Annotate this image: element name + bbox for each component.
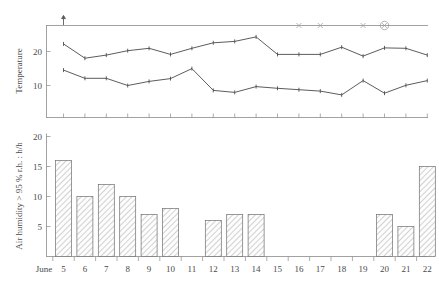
xtick-label-10: 10 [166,264,176,274]
xtick-label-9: 9 [147,264,152,274]
bar-june-7 [98,185,114,257]
xtick-label-7: 7 [104,264,109,274]
bottom-ytick-label-20: 20 [33,132,43,142]
x-axis-month-label: June [36,264,53,274]
series-maximum-temperature [64,37,428,58]
xtick-label-8: 8 [125,264,130,274]
bar-june-22 [419,167,435,257]
top-panel-temperature: 20 10 Temperature [14,15,428,117]
top-ytick-label-20: 20 [33,47,43,57]
bar-june-8 [120,197,136,257]
bottom-ytick-label-15: 15 [33,162,43,172]
bottom-panel-x-ticks [53,257,417,262]
bottom-ytick-label-5: 5 [38,222,43,232]
bar-june-13 [227,215,243,257]
humidity-bars [56,161,436,257]
figure-container: 20 10 Temperature [0,0,439,288]
xtick-label-19: 19 [359,264,369,274]
event-arrow-marker [62,15,66,25]
xtick-label-12: 12 [209,264,218,274]
top-panel-y-axis-label: Temperature [14,48,24,93]
bar-june-20 [377,215,393,257]
xtick-label-18: 18 [337,264,347,274]
chart-svg: 20 10 Temperature [0,0,439,288]
xtick-label-17: 17 [316,264,326,274]
bottom-panel-air-humidity: 20 15 10 5 Air humidity > 95 % r.h. : h/… [14,132,435,274]
xtick-label-13: 13 [230,264,240,274]
series-minimum-temperature-points [64,67,428,97]
bar-june-14 [248,215,264,257]
x-axis-day-labels: 5 6 7 8 9 10 11 12 13 14 15 16 17 18 19 … [61,264,432,274]
xtick-label-21: 21 [401,264,410,274]
bottom-panel-y-axis-label: Air humidity > 95 % r.h. : h/h [14,142,24,250]
bottom-panel-y-ticks [47,137,51,227]
bar-june-9 [141,215,157,257]
top-panel-x-ticks [64,114,428,118]
xtick-label-11: 11 [188,264,197,274]
xtick-label-20: 20 [380,264,390,274]
bar-june-6 [77,197,93,257]
bottom-ytick-label-10: 10 [33,192,43,202]
bar-june-12 [205,221,221,257]
bar-june-21 [398,227,414,257]
xtick-label-16: 16 [294,264,304,274]
xtick-label-5: 5 [61,264,66,274]
series-minimum-temperature [64,69,428,95]
bar-june-10 [163,209,179,257]
bar-june-5 [56,161,72,257]
xtick-label-22: 22 [423,264,432,274]
xtick-label-15: 15 [273,264,283,274]
xtick-label-6: 6 [83,264,88,274]
top-ytick-label-10: 10 [33,81,43,91]
top-panel-y-ticks [47,52,51,86]
xtick-label-14: 14 [252,264,262,274]
